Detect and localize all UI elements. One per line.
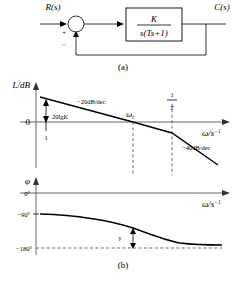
phase-x-axis-arrow xyxy=(222,190,230,196)
phase-tick-minus90: −90° xyxy=(17,211,30,218)
omega-one-label: 1 xyxy=(44,134,47,141)
crossover-label-group: ωc xyxy=(126,109,135,120)
phase-margin-label: γ xyxy=(119,234,122,241)
magnitude-x-axis-exponent: −1 xyxy=(214,128,221,134)
corner-frequency-label: 1 T xyxy=(167,91,177,111)
corner-numerator: 1 xyxy=(170,91,173,98)
caption-b: (b) xyxy=(118,260,129,270)
slope-low-label: −20dB/dec xyxy=(77,98,106,105)
gain-measure-arrow-up xyxy=(43,99,49,106)
magnitude-curve xyxy=(40,97,218,165)
transfer-numerator: K xyxy=(150,14,158,24)
transfer-denominator: s(Ts+1) xyxy=(140,28,168,38)
slope-high-label: −40dB/dec xyxy=(182,144,211,151)
gain-label: 20lgK xyxy=(52,113,69,120)
corner-denominator: T xyxy=(170,104,174,111)
input-label: R(s) xyxy=(45,2,61,12)
phase-y-axis-arrow xyxy=(33,177,39,185)
phase-curve xyxy=(40,214,222,245)
phase-x-axis-exponent: −1 xyxy=(214,199,221,205)
phase-tick-0: 0° xyxy=(24,190,30,197)
sum-minus-sign: − xyxy=(62,41,66,48)
magnitude-y-axis-arrow xyxy=(33,82,39,90)
error-arrowhead xyxy=(117,21,124,27)
phase-x-axis-label: ω/s xyxy=(202,199,215,209)
phase-y-axis-label: φ xyxy=(25,176,30,186)
phase-plot-group: φ 0° −90° −180° γ ω/s−1 (b) xyxy=(16,176,230,270)
magnitude-y-axis-label: L/dB xyxy=(11,80,30,90)
input-arrowhead xyxy=(60,21,67,27)
magnitude-zero-tick-label: 0 xyxy=(26,117,31,127)
sum-plus-sign: + xyxy=(62,29,66,36)
caption-a: (a) xyxy=(118,62,128,72)
block-diagram-group: R(s) C(s) + − K s(Ts+1) (a) xyxy=(40,2,230,72)
magnitude-x-axis-label-group: ω/s−1 xyxy=(202,128,221,139)
figure-canvas: R(s) C(s) + − K s(Ts+1) (a) xyxy=(0,0,247,283)
magnitude-plot-group: L/dB 0 1 20lgK −20dB/dec −40dB/dec ωc 1 … xyxy=(11,80,230,175)
magnitude-x-axis-arrow xyxy=(222,119,230,125)
crossover-subscript: c xyxy=(132,114,135,120)
phase-x-axis-label-group: ω/s−1 xyxy=(202,199,221,210)
phase-tick-minus180: −180° xyxy=(16,245,32,252)
bode-figure: R(s) C(s) + − K s(Ts+1) (a) xyxy=(0,0,247,283)
magnitude-x-axis-label: ω/s xyxy=(202,128,215,138)
output-label: C(s) xyxy=(214,2,230,12)
summing-junction xyxy=(68,16,84,32)
